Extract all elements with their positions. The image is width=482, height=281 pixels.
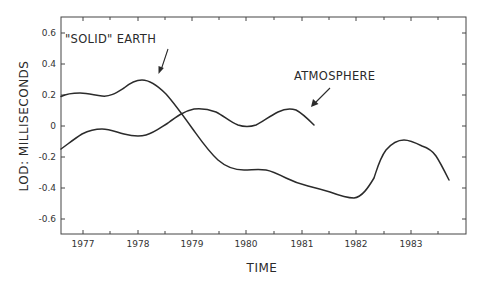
y-tick-label: -0.6: [38, 214, 56, 224]
y-axis-title: LOD: MILLISECONDS: [17, 61, 31, 192]
x-tick-label: 1977: [72, 239, 95, 249]
solid-earth-curve: [61, 80, 449, 198]
annotation-atmosphere: ATMOSPHERE: [294, 69, 375, 83]
y-tick-label: -0.4: [38, 183, 56, 193]
x-tick-label: 1982: [345, 239, 368, 249]
y-tick-label: -0.2: [38, 152, 56, 162]
y-ticks: [61, 33, 466, 219]
x-tick-label: 1983: [400, 239, 423, 249]
y-tick-label: 0.4: [42, 59, 57, 69]
x-tick-label: 1979: [181, 239, 204, 249]
annotation-solid-earth: "SOLID" EARTH: [65, 32, 156, 46]
y-tick-label: 0.2: [42, 90, 56, 100]
x-ticks: [83, 17, 438, 234]
x-axis-title: TIME: [246, 261, 278, 275]
plot-frame: [61, 17, 466, 234]
atmosphere-curve: [61, 109, 314, 149]
lod-chart: 0.6 0.4 0.2 0 -0.2 -0.4 -0.6 1977 1978 1…: [0, 0, 482, 281]
y-tick-labels: 0.6 0.4 0.2 0 -0.2 -0.4 -0.6: [38, 28, 56, 224]
arrow-atmosphere-icon: [311, 88, 330, 107]
x-tick-labels: 1977 1978 1979 1980 1981 1982 1983: [72, 239, 423, 249]
y-tick-label: 0: [50, 121, 56, 131]
arrow-solid-earth-icon: [159, 49, 169, 74]
y-tick-label: 0.6: [42, 28, 57, 38]
x-tick-label: 1980: [235, 239, 258, 249]
x-tick-label: 1978: [127, 239, 150, 249]
x-tick-label: 1981: [291, 239, 314, 249]
